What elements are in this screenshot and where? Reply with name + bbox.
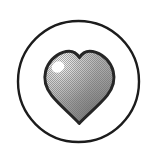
icon-canvas: A gray shaded heart outlined in black in… xyxy=(0,0,156,157)
heart-in-circle-icon[interactable] xyxy=(0,0,156,157)
